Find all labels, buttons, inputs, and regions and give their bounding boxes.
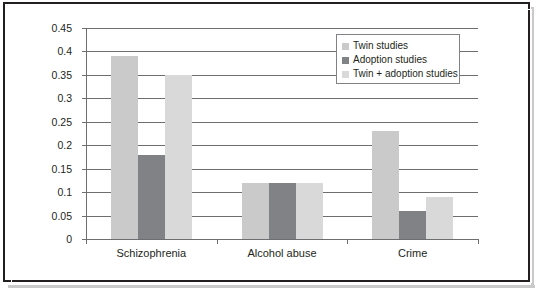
y-axis-tick-label: 0.4 bbox=[30, 46, 72, 57]
legend-label-twin-studies: Twin studies bbox=[353, 41, 408, 51]
y-axis-tick-label: 0 bbox=[30, 234, 72, 245]
bar bbox=[138, 155, 165, 239]
legend-swatch-icon-twin-adoption-studies bbox=[342, 71, 349, 78]
x-axis-tick-mark bbox=[347, 239, 348, 244]
y-axis-tick-label: 0.35 bbox=[30, 70, 72, 81]
bar bbox=[296, 183, 323, 239]
gridline bbox=[86, 98, 478, 99]
frame-shadow-bottom bbox=[8, 285, 535, 288]
chart-legend: Twin studies Adoption studies Twin + ado… bbox=[336, 34, 460, 84]
x-axis-tick-mark bbox=[86, 239, 87, 244]
y-axis-tick-label: 0.15 bbox=[30, 164, 72, 175]
x-axis-category-label: Crime bbox=[347, 248, 478, 259]
bar bbox=[372, 131, 399, 239]
y-axis-tick-label: 0.3 bbox=[30, 93, 72, 104]
bar bbox=[165, 75, 192, 239]
x-axis-tick-mark bbox=[217, 239, 218, 244]
legend-swatch-icon-twin-studies bbox=[342, 43, 349, 50]
y-axis-tick-label: 0.2 bbox=[30, 140, 72, 151]
legend-item-adoption-studies: Adoption studies bbox=[342, 53, 454, 67]
legend-item-twin-adoption-studies: Twin + adoption studies bbox=[342, 67, 454, 81]
x-axis-category-label: Schizophrenia bbox=[86, 248, 217, 259]
bar bbox=[269, 183, 296, 239]
legend-label-twin-adoption-studies: Twin + adoption studies bbox=[353, 69, 458, 79]
y-axis-tick-label: 0.1 bbox=[30, 187, 72, 198]
x-axis-line bbox=[86, 239, 479, 240]
gridline bbox=[86, 28, 478, 29]
bar bbox=[242, 183, 269, 239]
chart-figure: 00.050.10.150.20.250.30.350.40.45 Schizo… bbox=[0, 0, 538, 293]
y-axis-tick-label: 0.25 bbox=[30, 117, 72, 128]
x-axis-category-label: Alcohol abuse bbox=[217, 248, 348, 259]
legend-swatch-icon-adoption-studies bbox=[342, 57, 349, 64]
gridline bbox=[86, 145, 478, 146]
bar bbox=[111, 56, 138, 239]
gridline bbox=[86, 122, 478, 123]
bar bbox=[426, 197, 453, 239]
bar bbox=[399, 211, 426, 239]
legend-label-adoption-studies: Adoption studies bbox=[353, 55, 427, 65]
x-axis-tick-mark bbox=[478, 239, 479, 244]
y-axis-tick-label: 0.45 bbox=[30, 23, 72, 34]
legend-item-twin-studies: Twin studies bbox=[342, 39, 454, 53]
y-axis-tick-label: 0.05 bbox=[30, 211, 72, 222]
